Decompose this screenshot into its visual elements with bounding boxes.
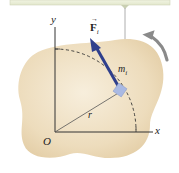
origin-label: O [43, 136, 51, 147]
y-axis-label: y [51, 14, 56, 25]
x-axis-label: x [155, 125, 160, 136]
force-subscript: i [97, 28, 99, 36]
mass-label: mi [118, 64, 127, 77]
mass-subscript: i [125, 69, 127, 77]
vector-arrow-icon: → [91, 16, 98, 23]
radius-label: r [88, 110, 92, 120]
rigid-body [18, 39, 163, 158]
force-label: → F i [90, 22, 99, 36]
